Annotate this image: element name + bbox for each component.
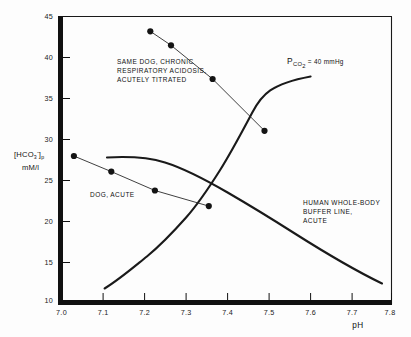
annotation-line: DOG, ACUTE xyxy=(90,191,135,198)
x-tick-label: 7.6 xyxy=(305,308,316,317)
x-tick-label: 7.2 xyxy=(139,308,150,317)
x-tick-label: 7.1 xyxy=(98,308,109,317)
y-axis-title: [HCO3-]p mM/l xyxy=(14,149,44,172)
x-axis-title: pH xyxy=(352,321,363,330)
x-tick-label: 7.4 xyxy=(222,308,233,317)
annotation-line: HUMAN WHOLE-BODY xyxy=(303,199,380,206)
x-axis-spine xyxy=(58,300,392,305)
x-tick-label: 7.0 xyxy=(56,308,67,317)
y-tick-label: 15 xyxy=(44,258,53,267)
y-axis-ticks xyxy=(63,17,70,301)
annotation-line: SAME DOG, CHRONIC xyxy=(117,58,194,65)
annotation-line: BUFFER LINE, xyxy=(303,208,352,215)
x-axis-ticks xyxy=(62,293,392,300)
y-tick-label: 35 xyxy=(44,94,53,103)
acid-base-chart: 45 40 35 30 25 20 15 10 7.0 7.1 7.2 7.3 xyxy=(0,0,411,337)
figure-container: 45 40 35 30 25 20 15 10 7.0 7.1 7.2 7.3 xyxy=(0,0,411,337)
y-axis-title-units: mM/l xyxy=(22,163,39,172)
y-axis-title-psub: p xyxy=(41,154,44,160)
x-tick-label: 7.5 xyxy=(264,308,275,317)
y-tick-label: 45 xyxy=(44,12,53,21)
data-point xyxy=(152,187,158,193)
data-point xyxy=(71,153,77,159)
data-point xyxy=(168,42,174,48)
annotation-line: ACUTELY TITRATED xyxy=(117,76,187,83)
annotation-line: RESPIRATORY ACIDOSIS, xyxy=(117,67,207,74)
svg-text:PCO2 = 40 mmHg: PCO2 = 40 mmHg xyxy=(287,56,344,69)
pco2-suffix: = 40 mmHg xyxy=(306,58,344,66)
x-tick-label: 7.3 xyxy=(181,308,192,317)
data-point xyxy=(108,169,114,175)
y-axis-tick-labels: 45 40 35 30 25 20 15 10 xyxy=(44,12,53,305)
annotation-pco2: PCO2 = 40 mmHg xyxy=(287,56,344,69)
y-axis-spine xyxy=(58,16,63,305)
data-point xyxy=(206,203,212,209)
x-tick-label: 7.8 xyxy=(385,308,396,317)
data-point xyxy=(261,128,267,134)
y-tick-label: 10 xyxy=(44,296,53,305)
y-tick-label: 25 xyxy=(44,176,53,185)
series-human-buffer-curve xyxy=(107,157,382,283)
data-point xyxy=(210,76,216,82)
annotation-human-buffer: HUMAN WHOLE-BODY BUFFER LINE, ACUTE xyxy=(303,199,380,224)
annotation-dog-acute: DOG, ACUTE xyxy=(90,191,135,198)
annotation-chronic-acidosis: SAME DOG, CHRONIC RESPIRATORY ACIDOSIS, … xyxy=(117,58,207,83)
y-tick-label: 30 xyxy=(44,135,53,144)
y-tick-label: 20 xyxy=(44,217,53,226)
series-dog-acute xyxy=(71,153,212,209)
x-axis-tick-labels: 7.0 7.1 7.2 7.3 7.4 7.5 7.6 7.7 7.8 xyxy=(56,308,395,317)
annotation-line: ACUTE xyxy=(303,217,327,224)
y-axis-title-part: [HCO xyxy=(14,150,34,159)
y-tick-label: 40 xyxy=(44,53,53,62)
pco2-sub: CO xyxy=(293,61,302,67)
x-tick-label: 7.7 xyxy=(347,308,358,317)
data-point xyxy=(147,28,153,34)
svg-text:[HCO3-]p: [HCO3-]p xyxy=(14,149,44,160)
